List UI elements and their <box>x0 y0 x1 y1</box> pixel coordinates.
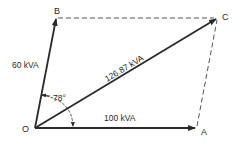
phasor-diagram: O A B C 100 kVA 60 kVA 126.87 kVA 78° <box>0 0 239 144</box>
point-label-a: A <box>201 127 207 137</box>
point-label-c: C <box>222 12 229 22</box>
angle-arc-start-arrow <box>42 95 50 96</box>
vector-oc <box>35 19 216 128</box>
angle-label: 78° <box>53 93 66 103</box>
vector-ob <box>35 19 56 128</box>
point-label-b: B <box>54 6 60 16</box>
vector-label-ob: 60 kVA <box>12 60 39 70</box>
vector-label-oa: 100 kVA <box>104 113 136 123</box>
point-label-o: O <box>22 124 29 134</box>
vector-label-oc: 126.87 kVA <box>103 53 146 84</box>
dashed-line-ac <box>197 20 217 126</box>
